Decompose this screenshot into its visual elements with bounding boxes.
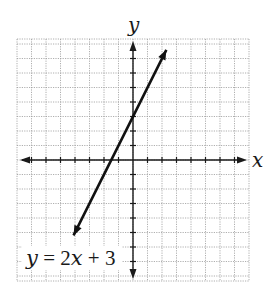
y-axis-down-arrow-icon (130, 269, 137, 279)
line-y-equals-2x-plus-3 (74, 50, 167, 236)
y-axis-up-arrow-icon (130, 41, 137, 51)
y-axis-label: y (127, 13, 140, 37)
x-axis-label: x (252, 148, 263, 172)
line-start-arrow-icon (74, 225, 82, 236)
equation-label: y = 2x + 3 (25, 246, 115, 270)
axes (20, 41, 247, 279)
coordinate-plane: y x y = 2x + 3 (0, 0, 267, 287)
x-axis-right-arrow-icon (237, 157, 247, 164)
line-series (74, 50, 167, 236)
x-axis-left-arrow-icon (20, 157, 30, 164)
